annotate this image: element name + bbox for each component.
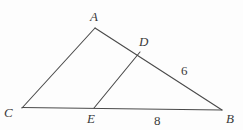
- measure-label-eb: 8: [154, 114, 161, 127]
- vertex-label-b: B: [226, 112, 234, 125]
- segment-DE: [94, 52, 140, 108]
- vertex-label-d: D: [139, 35, 148, 48]
- segment-CA: [22, 28, 95, 108]
- vertex-label-e: E: [87, 112, 95, 125]
- geometry-figure: A B C D E 6 8: [0, 0, 243, 130]
- measure-label-db: 6: [181, 64, 188, 77]
- geometry-canvas: [0, 0, 243, 130]
- vertex-label-c: C: [4, 106, 13, 119]
- segment-CB: [22, 108, 222, 111]
- vertex-label-a: A: [90, 10, 98, 23]
- segment-AB: [95, 28, 222, 110]
